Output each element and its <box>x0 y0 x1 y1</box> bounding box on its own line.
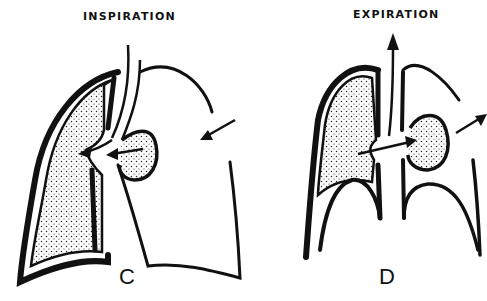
panel-d-letter: D <box>379 264 395 290</box>
d-mediastinal-bulge <box>408 116 448 171</box>
mediastinal-wall-left <box>92 170 95 250</box>
panel-c-letter: C <box>119 264 135 290</box>
d-right-inner-line <box>402 72 403 130</box>
d-trachea <box>389 48 393 136</box>
d-right-mediastinal-wall <box>403 160 404 218</box>
d-left-diaphragm <box>320 180 380 250</box>
panel-c-inspiration <box>20 45 240 282</box>
panel-d-expiration <box>306 33 487 257</box>
left-lung-inner-line <box>108 78 114 128</box>
panel-c-title: INSPIRATION <box>83 10 176 23</box>
trachea <box>112 45 140 140</box>
right-chest-outline <box>140 67 212 112</box>
d-left-mediastinal-wall <box>378 165 380 218</box>
d-arrowhead-trachea-up <box>387 33 399 50</box>
lung-diagram <box>0 0 487 301</box>
panel-d-title: EXPIRATION <box>353 8 439 21</box>
left-lung-stippled <box>31 80 112 266</box>
mediastinal-bulge <box>120 131 157 180</box>
d-right-chest-upper <box>403 65 459 100</box>
arrowhead-from-bulge <box>106 148 118 160</box>
d-right-diaphragm <box>404 184 478 250</box>
